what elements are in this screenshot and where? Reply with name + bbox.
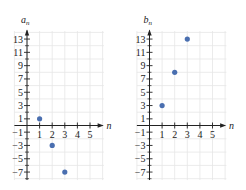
x-tick-label: 2 xyxy=(50,129,55,140)
y-tick-label: 9 xyxy=(18,60,23,71)
x-tick-label: 3 xyxy=(185,129,190,140)
plot-a-n: nan131197531−1−3−5−712345 xyxy=(12,14,111,180)
y-tick-label: −1 xyxy=(135,127,146,138)
y-tick-label: 1 xyxy=(18,113,23,124)
data-point xyxy=(172,70,177,75)
y-tick-label: 1 xyxy=(141,113,146,124)
x-tick-label: 3 xyxy=(62,129,67,140)
y-tick-label: 13 xyxy=(136,34,146,45)
x-tick-label: 5 xyxy=(88,129,93,140)
y-axis-label: bn xyxy=(144,14,153,27)
data-point xyxy=(62,169,67,174)
y-tick-label: 3 xyxy=(18,100,23,111)
data-point xyxy=(50,143,55,148)
y-tick-label: 11 xyxy=(13,47,23,58)
x-tick-label: 4 xyxy=(75,129,80,140)
y-tick-label: −7 xyxy=(12,167,23,178)
x-tick-label: 2 xyxy=(172,129,177,140)
y-tick-label: 3 xyxy=(141,100,146,111)
y-tick-label: 9 xyxy=(141,60,146,71)
y-tick-label: −5 xyxy=(12,153,23,164)
y-tick-label: 7 xyxy=(141,73,146,84)
y-tick-label: 7 xyxy=(18,73,23,84)
x-tick-label: 1 xyxy=(37,129,42,140)
y-tick-label: −3 xyxy=(135,140,146,151)
sequence-plots: nan131197531−1−3−5−712345 nbn131197531−1… xyxy=(0,0,246,190)
y-tick-label: −1 xyxy=(12,127,23,138)
x-tick-label: 1 xyxy=(160,129,165,140)
data-point xyxy=(185,36,190,41)
data-point xyxy=(37,116,42,121)
plot-b-n: nbn131197531−1−3−5−712345 xyxy=(135,14,234,180)
x-tick-label: 5 xyxy=(210,129,215,140)
y-tick-label: 11 xyxy=(136,47,146,58)
x-axis-label: n xyxy=(229,120,234,131)
y-axis-label: an xyxy=(21,14,30,27)
x-axis-label: n xyxy=(107,120,112,131)
y-tick-label: −7 xyxy=(135,167,146,178)
x-tick-label: 4 xyxy=(197,129,202,140)
y-tick-label: 5 xyxy=(141,87,146,98)
y-tick-label: 13 xyxy=(13,34,23,45)
y-tick-label: 5 xyxy=(18,87,23,98)
y-tick-label: −3 xyxy=(12,140,23,151)
y-tick-label: −5 xyxy=(135,153,146,164)
data-point xyxy=(160,103,165,108)
